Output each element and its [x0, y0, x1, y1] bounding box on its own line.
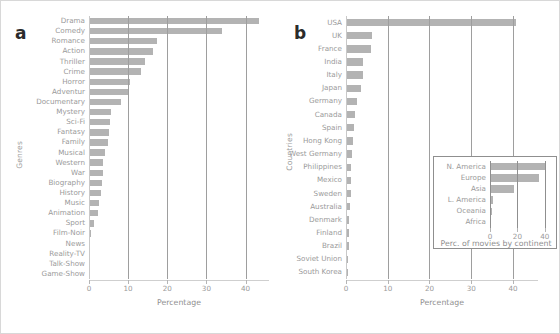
bar-row: Family — [89, 139, 269, 145]
bar-row: Musical — [89, 149, 269, 155]
bar-row: War — [89, 170, 269, 176]
category-label: Spain — [322, 124, 342, 131]
bar — [346, 85, 361, 92]
bar-row: Music — [89, 200, 269, 206]
x-tick-label: 40 — [241, 284, 250, 293]
category-label: Music — [65, 200, 85, 207]
x-tick-label: 0 — [344, 284, 349, 293]
bar-row: Drama — [89, 18, 269, 24]
category-label: Drama — [61, 17, 85, 24]
bar — [89, 139, 108, 145]
bar — [89, 170, 103, 176]
gridline — [206, 16, 207, 279]
bar — [89, 180, 102, 186]
bar-row: Soviet Union — [346, 256, 538, 263]
bar-row: Action — [89, 48, 269, 54]
bar — [89, 89, 129, 95]
bar-row: Horror — [89, 79, 269, 85]
category-label: L. America — [448, 196, 486, 203]
bar — [89, 109, 111, 115]
gridline — [128, 16, 129, 279]
bar-row: Comedy — [89, 28, 269, 34]
category-label: Africa — [466, 219, 487, 226]
bar — [89, 79, 130, 85]
inset-plot-area: N. AmericaEuropeAsiaL. AmericaOceaniaAfr… — [490, 161, 553, 228]
bar-row: Canada — [346, 111, 538, 118]
x-tick-label: 10 — [124, 284, 133, 293]
category-label: Horror — [62, 78, 85, 85]
category-label: USA — [327, 19, 342, 26]
bar-row: Hong Kong — [346, 137, 538, 144]
gridline — [167, 16, 168, 279]
bar-row: Documentary — [89, 99, 269, 105]
inset-chart: N. AmericaEuropeAsiaL. AmericaOceaniaAfr… — [433, 156, 557, 249]
bar-row: N. America — [490, 163, 553, 171]
category-label: Hong Kong — [303, 137, 342, 144]
bar-row: L. America — [490, 196, 553, 204]
category-label: Germany — [309, 98, 342, 105]
bar — [346, 98, 357, 105]
category-label: History — [59, 189, 85, 196]
gridline — [545, 161, 546, 228]
category-label: N. America — [446, 163, 486, 170]
bar-row: Asia — [490, 185, 553, 193]
category-label: Sport — [66, 220, 85, 227]
bar-row: Romance — [89, 38, 269, 44]
figure-container: a Genres DramaComedyRomanceActionThrille… — [0, 0, 560, 334]
bar-row: Talk-Show — [89, 261, 269, 267]
bar — [89, 68, 141, 74]
panel-a-x-axis — [89, 280, 269, 281]
category-label: Family — [62, 139, 85, 146]
bar — [346, 137, 353, 144]
category-label: Adventur — [52, 88, 85, 95]
category-label: Japan — [322, 85, 342, 92]
bar — [346, 71, 363, 78]
panel-a-plot-area: DramaComedyRomanceActionThrillerCrimeHor… — [89, 16, 269, 279]
category-label: South Korea — [298, 269, 342, 276]
category-label: Romance — [52, 38, 85, 45]
bar-row: Oceania — [490, 208, 553, 216]
gridline — [89, 16, 90, 279]
bar-row: Crime — [89, 68, 269, 74]
bar — [89, 99, 121, 105]
bar-row: Sci-Fi — [89, 119, 269, 125]
category-label: Sweden — [314, 190, 342, 197]
x-tick-label: 20 — [425, 284, 434, 293]
category-label: Comedy — [55, 28, 85, 35]
category-label: Animation — [48, 210, 85, 217]
category-label: France — [318, 45, 342, 52]
bar — [346, 58, 363, 65]
bar — [89, 38, 157, 44]
bar — [89, 58, 145, 64]
bar-row: Thriller — [89, 58, 269, 64]
bar — [490, 185, 514, 193]
x-tick-label: 20 — [163, 284, 172, 293]
category-label: Soviet Union — [296, 256, 342, 263]
bar-row: South Korea — [346, 269, 538, 276]
bar-row: Africa — [490, 219, 553, 227]
category-label: UK — [332, 32, 342, 39]
category-label: Fantasy — [57, 129, 85, 136]
category-label: Film-Noir — [53, 230, 85, 237]
panel-b-x-axis-title: Percentage — [420, 298, 464, 307]
bar-row: Italy — [346, 71, 538, 78]
panel-b-x-axis — [346, 280, 538, 281]
bar — [89, 48, 153, 54]
bar — [346, 32, 372, 39]
bar-row: News — [89, 240, 269, 246]
bar-row: Sport — [89, 220, 269, 226]
category-label: War — [71, 169, 85, 176]
bar — [89, 200, 99, 206]
gridline — [429, 16, 430, 279]
panel-b: b Countries USAUKFranceIndiaItalyJapanGe… — [281, 1, 560, 334]
bar — [89, 149, 105, 155]
category-label: Canada — [315, 111, 342, 118]
bar-row: France — [346, 45, 538, 52]
gridline — [490, 161, 491, 228]
panel-a-x-axis-title: Percentage — [157, 298, 201, 307]
x-tick-label: 0 — [87, 284, 92, 293]
panel-a-letter: a — [15, 23, 26, 43]
category-label: Crime — [64, 68, 85, 75]
bar-row: Japan — [346, 85, 538, 92]
panel-a-bars: DramaComedyRomanceActionThrillerCrimeHor… — [89, 16, 269, 279]
